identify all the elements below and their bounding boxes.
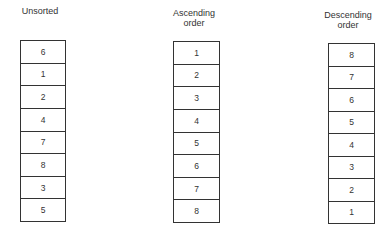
stack-cell: 3 [21,177,65,200]
stack-cell: 2 [21,86,65,109]
ascending-title: Ascending order [164,8,224,28]
stack-cell: 6 [174,155,219,178]
stack-cell: 7 [174,178,219,201]
stack-cell: 1 [329,202,374,224]
descending-title: Descending order [318,10,378,30]
stack-cell: 3 [329,157,374,180]
title-line: order [164,18,224,28]
title-line: Ascending [164,8,224,18]
stack-cell: 7 [21,132,65,155]
stack-cell: 7 [329,67,374,90]
stack-cell: 4 [174,110,219,133]
stack-cell: 6 [21,41,65,64]
stack-cell: 2 [174,65,219,88]
unsorted-title: Unsorted [14,6,66,16]
ascending-stack: 1 2 3 4 5 6 7 8 [173,41,220,223]
stack-cell: 4 [21,109,65,132]
stack-cell: 3 [174,87,219,110]
stack-cell: 5 [174,133,219,156]
stack-cell: 5 [329,112,374,135]
title-line: order [318,20,378,30]
stack-cell: 8 [21,154,65,177]
descending-stack: 8 7 6 5 4 3 2 1 [328,43,375,224]
stack-cell: 1 [21,64,65,87]
unsorted-stack: 6 1 2 4 7 8 3 5 [20,40,66,222]
stack-cell: 1 [174,42,219,65]
stack-cell: 8 [174,200,219,222]
stack-cell: 6 [329,89,374,112]
title-line: Descending [318,10,378,20]
stack-cell: 5 [21,199,65,221]
stack-cell: 8 [329,44,374,67]
stack-cell: 2 [329,179,374,202]
stack-cell: 4 [329,134,374,157]
title-line: Unsorted [14,6,66,16]
